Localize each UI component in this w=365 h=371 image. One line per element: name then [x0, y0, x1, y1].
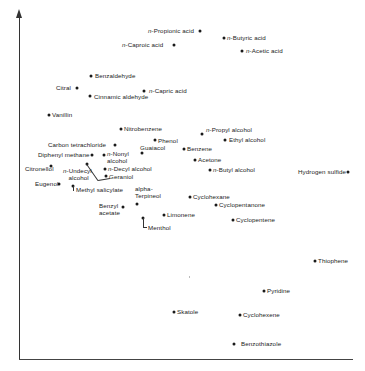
- point-benzothiazole: [233, 343, 236, 346]
- label-text: -Propyl alcohol: [210, 126, 252, 133]
- label-n-butyric-acid: n-Butyric acid: [227, 34, 266, 41]
- point-cyclohexane: [189, 196, 192, 199]
- y-axis: [19, 16, 20, 360]
- point-benzaldehyde: [90, 75, 93, 78]
- print-artifact: [189, 276, 190, 278]
- x-axis: [19, 359, 353, 360]
- label-thiophene: Thiophene: [318, 257, 348, 264]
- label-limonene: Limonene: [167, 211, 195, 218]
- point-skatole: [173, 311, 176, 314]
- point-alpha-terpineol: [136, 203, 139, 206]
- point-guaiacol: [141, 152, 144, 155]
- label-eugenol: Eugenol: [35, 180, 58, 187]
- label-text-line2: alcohol: [68, 174, 88, 181]
- label-cinnamic-aldehyde: Cinnamic aldehyde: [94, 93, 148, 100]
- label-text-line1: Benzyl: [99, 202, 118, 209]
- label-pyridine: Pyridine: [267, 287, 290, 294]
- label-n-butyl-alcohol: n-Butyl alcohol: [213, 166, 255, 173]
- leader-methyl-salicylate: [73, 186, 74, 191]
- label-benzyl-acetate: Benzylacetate: [99, 202, 120, 216]
- point-n-propyl-alcohol: [201, 133, 204, 136]
- label-text: -Butyric acid: [231, 34, 266, 41]
- label-vanillin: Vanillin: [52, 111, 72, 118]
- point-n-nonyl-alcohol: [103, 154, 106, 157]
- label-text: -Butyl alcohol: [217, 166, 256, 173]
- point-citral: [76, 87, 79, 90]
- point-n-propionic-acid: [199, 30, 202, 33]
- point-limonene: [163, 214, 166, 217]
- point-hydrogen-sulfide: [347, 171, 350, 174]
- label-cyclohexane: Cyclohexane: [193, 193, 230, 200]
- label-text: -Propionic acid: [152, 27, 194, 34]
- point-n-acetic-acid: [241, 50, 244, 53]
- label-text: -Caproic acid: [126, 41, 164, 48]
- point-n-butyl-alcohol: [209, 169, 212, 172]
- label-citral: Citral: [56, 84, 71, 91]
- label-guaiacol: Guaiacol: [140, 144, 165, 151]
- point-benzyl-acetate: [122, 206, 125, 209]
- label-n-capric-acid: n-Capric acid: [149, 87, 187, 94]
- label-text: -Decyl alcohol: [112, 165, 152, 172]
- point-phenol: [154, 139, 157, 142]
- point-acetone: [194, 159, 197, 162]
- label-benzaldehyde: Benzaldehyde: [95, 72, 135, 79]
- label-text-line2: acetate: [99, 209, 120, 216]
- point-cyclohexene: [239, 314, 242, 317]
- label-hydrogen-sulfide: Hydrogen sulfide: [298, 168, 346, 175]
- label-methyl-salicylate: Methyl salicylate: [76, 186, 123, 193]
- label-benzothiazole: Benzothiazole: [241, 340, 281, 347]
- label-skatole: Skatole: [177, 308, 198, 315]
- leader-menthol: [143, 218, 144, 227]
- point-n-butyric-acid: [223, 37, 226, 40]
- odor-similarity-scatter-plot: n-Propionic acid n-Butyric acid n-Caproi…: [0, 0, 365, 371]
- point-cinnamic-aldehyde: [89, 95, 92, 98]
- label-geraniol: Geraniol: [109, 173, 133, 180]
- label-cyclopentene: Cyclopentene: [236, 216, 275, 223]
- y-axis-arrow-icon: [16, 9, 22, 18]
- label-n-nonyl-alcohol: n-Nonylalcohol: [107, 150, 129, 164]
- label-ethyl-alcohol: Ethyl alcohol: [229, 136, 265, 143]
- label-n-undecyl-alcohol: n-Undecyl alcohol: [63, 167, 92, 181]
- label-citronellol: Citronellol: [25, 165, 54, 172]
- label-cyclohexene: Cyclohexene: [243, 311, 280, 318]
- label-menthol: Menthol: [148, 224, 171, 231]
- point-geraniol: [105, 175, 108, 178]
- point-ethyl-alcohol: [224, 139, 227, 142]
- label-carbon-tetrachloride: Carbon tetrachloride: [48, 141, 106, 148]
- point-nitrobenzene: [120, 128, 123, 131]
- label-alpha-terpineol: alpha-Terpineol: [135, 185, 161, 199]
- point-n-caproic-acid: [173, 44, 176, 47]
- label-n-propyl-alcohol: n-Propyl alcohol: [206, 126, 252, 133]
- label-phenol: Phenol: [158, 137, 178, 144]
- point-pyridine: [263, 290, 266, 293]
- label-cyclopentanone: Cyclopentanone: [219, 201, 265, 208]
- point-cyclopentene: [232, 219, 235, 222]
- point-carbon-tetrachloride: [114, 144, 117, 147]
- point-benzene: [183, 148, 186, 151]
- point-cyclopentanone: [215, 204, 218, 207]
- point-diphenyl-methane: [91, 154, 94, 157]
- point-thiophene: [314, 260, 317, 263]
- label-n-caproic-acid: n-Caproic acid: [122, 41, 163, 48]
- label-diphenyl-methane: Diphenyl methane: [38, 151, 89, 158]
- point-n-decyl-alcohol: [104, 168, 107, 171]
- leader-menthol-2: [143, 227, 147, 228]
- label-nitrobenzene: Nitrobenzene: [124, 125, 162, 132]
- label-text-line2: Terpineol: [135, 192, 161, 199]
- label-n-acetic-acid: n-Acetic acid: [246, 47, 283, 54]
- label-text: -Nonyl: [111, 150, 129, 157]
- label-text: -Capric acid: [153, 87, 187, 94]
- label-acetone: Acetone: [198, 156, 221, 163]
- label-text-line1: alpha-: [135, 185, 153, 192]
- label-n-decyl-alcohol: n-Decyl alcohol: [108, 165, 152, 172]
- label-n-propionic-acid: n-Propionic acid: [148, 27, 194, 34]
- point-vanillin: [48, 114, 51, 117]
- label-text-line2: alcohol: [107, 157, 127, 164]
- label-text: -Undecyl: [67, 167, 92, 174]
- label-benzene: Benzene: [187, 145, 212, 152]
- label-text: -Acetic acid: [250, 47, 283, 54]
